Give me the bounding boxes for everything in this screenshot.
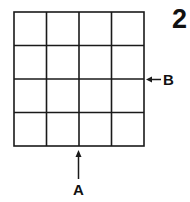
arrow-a-icon bbox=[76, 150, 82, 179]
grid bbox=[14, 12, 144, 146]
grid-diagram bbox=[0, 0, 190, 202]
figure-number: 2 bbox=[172, 4, 187, 34]
label-b: B bbox=[163, 72, 174, 88]
label-a: A bbox=[73, 182, 84, 198]
arrow-b-icon bbox=[146, 77, 161, 83]
